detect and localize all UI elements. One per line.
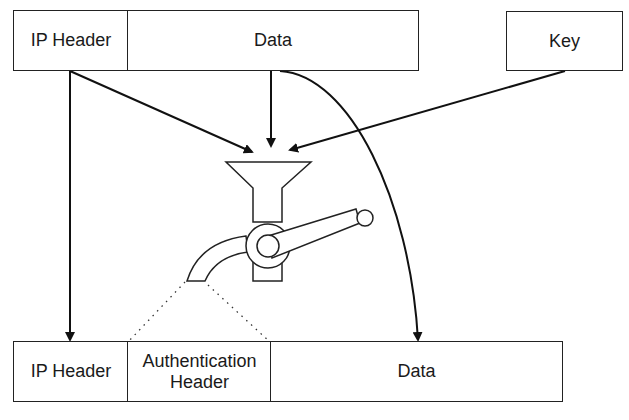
bottom-ip-header-label: IP Header xyxy=(31,361,112,382)
top-data-label: Data xyxy=(254,30,292,51)
auth-header-label-line2: Header xyxy=(170,372,229,393)
hash-grinder-icon xyxy=(187,162,373,281)
arrow-ip-to-funnel xyxy=(70,71,252,152)
arrow-key-to-funnel xyxy=(290,71,565,150)
key-label: Key xyxy=(549,31,580,52)
bottom-data-label: Data xyxy=(397,361,435,382)
authentication-header-box: Authentication Header xyxy=(127,341,272,402)
top-data-box: Data xyxy=(127,10,419,71)
bottom-ip-header-box: IP Header xyxy=(13,341,129,402)
arrow-data-to-data xyxy=(280,71,418,340)
top-ip-header-label: IP Header xyxy=(31,30,112,51)
bottom-data-box: Data xyxy=(270,341,563,402)
key-box: Key xyxy=(506,11,623,71)
top-ip-header-box: IP Header xyxy=(13,10,129,71)
auth-header-label-line1: Authentication xyxy=(142,351,256,372)
dotted-output-lines xyxy=(128,282,270,342)
